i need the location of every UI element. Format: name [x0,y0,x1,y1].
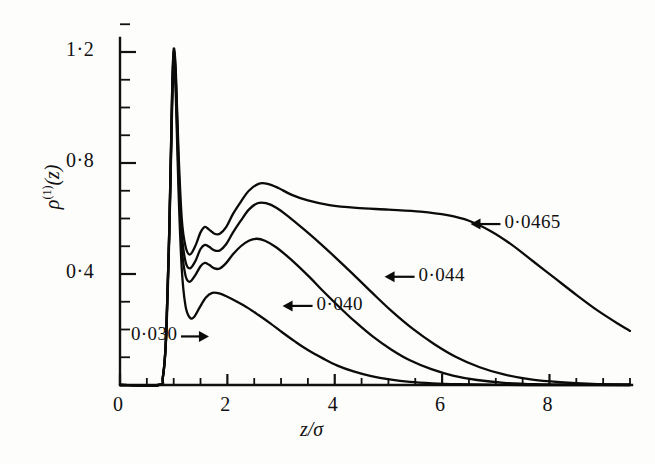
curve-label-0-0465: 0·0465 [504,211,560,233]
x-tick-label: 6 [435,393,446,416]
x-tick-label: 8 [542,393,553,416]
y-axis-label-argument: (z) [41,164,63,185]
y-axis-label-superscript: (1) [40,186,54,200]
y-tick-label: 0·4 [66,260,94,283]
x-tick-label: 4 [328,393,339,416]
arrow-head [283,300,293,311]
axes-group [120,24,632,385]
x-tick-label: 2 [220,393,231,416]
y-axis-label: ρ(1)(z) [40,117,64,257]
arrow-head [385,271,395,282]
x-axis-label: z/σ [300,418,323,441]
y-axis-label-rho: ρ [41,200,63,210]
x-tick-label: 0 [113,393,124,416]
y-tick-label: 0·8 [66,149,94,172]
curve-label-0-040: 0·040 [317,293,363,315]
density-profile-figure: ρ(1)(z) z/σ 024680·40·81·2 0·04650·0440·… [0,0,655,464]
arrow-head [199,331,209,342]
curve-label-0-044: 0·044 [419,264,465,286]
y-tick-label: 1·2 [66,38,94,61]
arrow-head [470,219,480,230]
curve-label-0-030: 0·030 [131,323,177,345]
